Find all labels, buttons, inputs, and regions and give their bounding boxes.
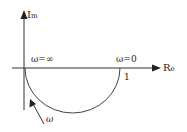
- real-axis-label-main: R: [163, 62, 171, 73]
- omega-infinity-label: ω=∞: [31, 55, 53, 64]
- direction-arrowhead-icon: [30, 99, 37, 108]
- real-axis: [12, 65, 161, 72]
- imaginary-axis: [21, 10, 28, 110]
- real-axis-label: Re: [163, 63, 175, 73]
- real-intercept-label: 1: [124, 73, 130, 82]
- imaginary-axis-label: Im: [27, 10, 38, 20]
- imaginary-axis-label-sub: m: [31, 12, 38, 20]
- real-axis-label-sub: e: [171, 65, 175, 73]
- omega-zero-label: ω=0: [116, 55, 137, 64]
- real-axis-arrow-icon: [152, 65, 161, 72]
- direction-omega-label: ω: [46, 115, 53, 124]
- nyquist-semicircle: [25, 68, 120, 113]
